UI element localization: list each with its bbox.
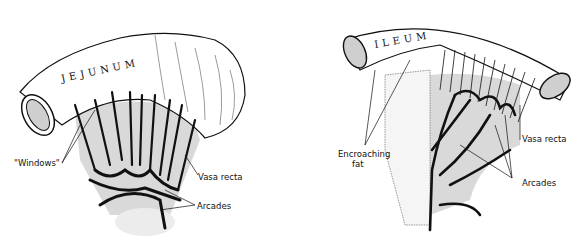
callout-vasa-recta-right: Vasa recta xyxy=(522,134,566,144)
anatomy-figure: JEJUNUM "Windows" Vasa recta Arcades xyxy=(0,0,583,244)
callout-encroaching-fat-line1: Encroaching xyxy=(338,149,390,159)
callout-arcades-left: Arcades xyxy=(197,201,232,211)
callout-vasa-recta-left: Vasa recta xyxy=(198,172,242,182)
callout-arcades-right: Arcades xyxy=(522,178,557,188)
ileum-illustration: ILEUM Encroaching fat Vasa recta Arcades xyxy=(338,29,575,230)
callout-encroaching-fat-line2: fat xyxy=(352,159,364,169)
callout-windows: "Windows" xyxy=(14,158,60,168)
jejunum-illustration: JEJUNUM "Windows" Vasa recta Arcades xyxy=(14,33,245,236)
